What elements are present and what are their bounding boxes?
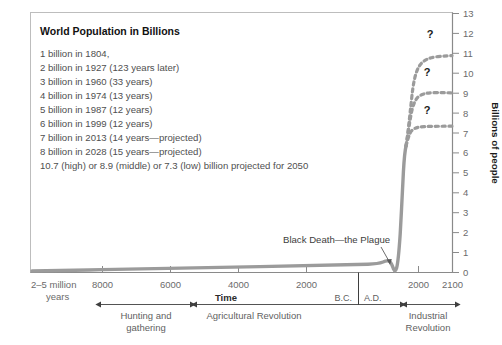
population-chart: 0 1 2 3 4 5 6 7 8 9 10 11 12 13 Billions… — [0, 0, 502, 345]
y-tick-label: 7 — [463, 128, 468, 139]
info-panel-line: 6 billion in 1999 (12 years) — [40, 118, 153, 129]
info-panel-line: 10.7 (high) or 8.9 (middle) or 7.3 (low)… — [40, 160, 308, 171]
era-bc-label: B.C. — [334, 293, 352, 303]
y-tick-label: 9 — [463, 88, 468, 99]
era-label-hunting-line2: gathering — [126, 322, 166, 333]
info-panel: World Population in Billions 1 billion i… — [40, 25, 308, 171]
x-tick-label: 2000 — [408, 279, 429, 290]
info-panel-title: World Population in Billions — [40, 25, 180, 37]
y-tick-label: 1 — [463, 247, 468, 258]
question-mark-low: ? — [424, 104, 431, 116]
era-ad-label: A.D. — [364, 293, 382, 303]
y-tick-label: 6 — [463, 147, 468, 158]
era-label-agricultural: Agricultural Revolution — [206, 310, 301, 321]
y-tick-label: 3 — [463, 207, 468, 218]
y-tick-label: 4 — [463, 187, 468, 198]
y-axis-ticks — [453, 14, 460, 273]
x-axis-title: Time — [215, 292, 237, 303]
y-axis-tick-labels: 0 1 2 3 4 5 6 7 8 9 10 11 12 13 — [463, 8, 474, 278]
era-label-industrial-line2: Revolution — [406, 322, 451, 333]
y-tick-label: 10 — [463, 68, 474, 79]
x-tick-label: 2100 — [442, 279, 463, 290]
x-axis-tick-labels: 8000 6000 4000 2000 2000 2100 — [92, 279, 463, 290]
y-tick-label: 2 — [463, 227, 468, 238]
x-origin-label-line2: years — [46, 291, 69, 302]
x-tick-label: 8000 — [92, 279, 113, 290]
x-tick-label: 4000 — [228, 279, 249, 290]
y-tick-label: 12 — [463, 28, 474, 39]
info-panel-line: 2 billion in 1927 (123 years later) — [40, 62, 179, 73]
era-label-industrial-line1: Industrial — [409, 310, 448, 321]
question-mark-middle: ? — [424, 66, 431, 78]
info-panel-line: 4 billion in 1974 (13 years) — [40, 90, 153, 101]
projection-curve-low — [406, 126, 452, 146]
question-mark-high: ? — [427, 28, 434, 40]
y-tick-label: 13 — [463, 8, 474, 19]
y-tick-label: 5 — [463, 167, 468, 178]
y-tick-label: 11 — [463, 48, 473, 59]
x-tick-label: 6000 — [160, 279, 181, 290]
info-panel-line: 3 billion in 1960 (33 years) — [40, 76, 153, 87]
y-tick-label: 8 — [463, 108, 468, 119]
info-panel-line: 7 billion in 2013 (14 years—projected) — [40, 132, 202, 143]
chart-figure: 0 1 2 3 4 5 6 7 8 9 10 11 12 13 Billions… — [0, 0, 502, 345]
x-origin-label-line1: 2–5 million — [31, 279, 76, 290]
projection-curve-middle — [406, 93, 452, 146]
y-tick-label: 0 — [463, 267, 468, 278]
info-panel-line: 5 billion in 1987 (12 years) — [40, 104, 153, 115]
info-panel-line: 8 billion in 2028 (15 years—projected) — [40, 146, 202, 157]
black-death-annotation: Black Death—the Plague — [283, 234, 390, 245]
info-panel-line: 1 billion in 1804, — [40, 48, 109, 59]
x-tick-label: 2000 — [296, 279, 317, 290]
era-label-hunting-line1: Hunting and — [120, 310, 171, 321]
y-axis-title: Billions of people — [490, 102, 501, 184]
